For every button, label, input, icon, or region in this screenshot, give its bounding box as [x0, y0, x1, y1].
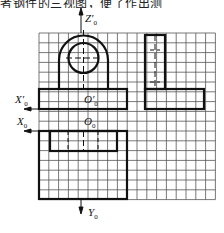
y-axis — [79, 199, 83, 214]
z-axis — [79, 8, 83, 33]
z-axis-label: Z′0 — [85, 12, 98, 27]
three-view-drawing: Z′0 X′0 X0 O′0 O0 Y0 — [0, 0, 224, 233]
origin-label: O0 — [84, 115, 96, 130]
y-axis-label: Y0 — [88, 206, 98, 221]
x-axis-label: X0 — [16, 115, 28, 130]
origin-prime-label: O′0 — [84, 93, 98, 108]
x-prime-axis-label: X′0 — [14, 93, 28, 108]
